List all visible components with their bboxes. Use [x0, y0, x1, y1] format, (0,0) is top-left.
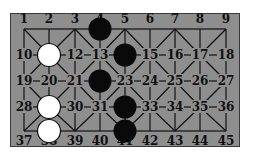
point-label-43: 43 [167, 134, 184, 148]
point-label-13: 13 [92, 48, 109, 62]
point-label-20: 20 [41, 74, 58, 88]
point-label-18: 18 [218, 48, 235, 62]
point-label-33: 33 [142, 100, 159, 114]
point-label-28: 28 [16, 100, 33, 114]
point-label-45: 45 [218, 134, 235, 148]
point-label-24: 24 [142, 74, 159, 88]
point-label-37: 37 [16, 134, 33, 148]
point-label-25: 25 [167, 74, 184, 88]
point-label-30: 30 [67, 100, 84, 114]
point-label-2: 2 [45, 12, 53, 26]
point-label-19: 19 [16, 74, 33, 88]
point-label-5: 5 [121, 12, 129, 26]
point-label-40: 40 [92, 134, 109, 148]
black-piece[interactable] [114, 96, 137, 119]
board-diagram: 1234567891011121314151617181920212223242… [0, 0, 253, 155]
black-piece[interactable] [114, 120, 137, 143]
point-label-36: 36 [218, 100, 235, 114]
black-piece[interactable] [89, 18, 112, 41]
white-piece[interactable] [38, 96, 61, 119]
point-label-31: 31 [92, 100, 109, 114]
white-piece[interactable] [38, 120, 61, 143]
point-label-34: 34 [167, 100, 184, 114]
point-label-39: 39 [67, 134, 84, 148]
point-label-21: 21 [67, 74, 84, 88]
point-label-8: 8 [196, 12, 204, 26]
point-label-35: 35 [192, 100, 209, 114]
point-label-3: 3 [71, 12, 79, 26]
point-label-44: 44 [192, 134, 209, 148]
point-label-15: 15 [142, 48, 159, 62]
point-label-9: 9 [222, 12, 230, 26]
white-piece[interactable] [38, 44, 61, 67]
point-label-27: 27 [218, 74, 235, 88]
point-label-42: 42 [142, 134, 159, 148]
point-label-1: 1 [20, 12, 28, 26]
point-label-10: 10 [16, 48, 33, 62]
black-piece[interactable] [89, 70, 112, 93]
point-label-12: 12 [67, 48, 84, 62]
point-label-26: 26 [192, 74, 209, 88]
black-piece[interactable] [114, 44, 137, 67]
point-label-16: 16 [167, 48, 184, 62]
point-label-23: 23 [117, 74, 134, 88]
point-label-17: 17 [192, 48, 209, 62]
point-label-7: 7 [171, 12, 179, 26]
point-label-6: 6 [146, 12, 154, 26]
